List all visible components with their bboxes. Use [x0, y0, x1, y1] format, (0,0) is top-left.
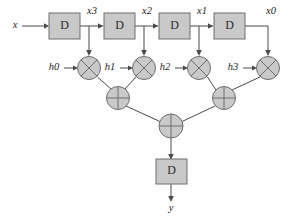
fir-filter-diagram: D D D D D — [0, 0, 295, 217]
arrowhead-d1-input — [44, 23, 49, 29]
label-tap-x1: x1 — [196, 5, 207, 16]
delay-block-d4-label: D — [225, 18, 234, 32]
multiplier-h2[interactable] — [188, 57, 211, 80]
label-tap-x0: x0 — [265, 5, 277, 16]
multiplier-h1[interactable] — [133, 57, 156, 80]
multiplier-h0[interactable] — [78, 57, 101, 80]
label-coefficient-h2: h2 — [160, 61, 171, 72]
arrowhead-mul3-input — [265, 50, 271, 56]
wire-mul0-to-addleft — [98, 77, 113, 90]
wire-addright-to-addfinal — [181, 106, 215, 122]
wire-mul2-to-addright — [208, 77, 217, 90]
label-coefficient-h3: h3 — [228, 61, 239, 72]
arrowhead-mul2-input — [196, 50, 202, 56]
label-output-y: y — [168, 202, 174, 213]
arrowhead-d2-input — [98, 23, 103, 29]
delay-block-d3-label: D — [170, 18, 179, 32]
arrowhead-mul1-input — [141, 50, 147, 56]
wire-mul1-to-addleft — [124, 77, 136, 90]
arrowhead-output — [168, 196, 174, 202]
adder-final[interactable] — [159, 114, 183, 138]
adder-right[interactable] — [213, 87, 236, 110]
delay-block-d4[interactable]: D — [214, 13, 245, 39]
adder-left[interactable] — [107, 87, 130, 110]
multiplier-h3[interactable] — [257, 57, 280, 80]
label-input-x: x — [12, 19, 18, 30]
delay-block-d3[interactable]: D — [159, 13, 190, 39]
label-tap-x2: x2 — [141, 5, 153, 16]
arrowhead-d3-input — [153, 23, 158, 29]
label-tap-x3: x3 — [86, 5, 97, 16]
delay-block-d1[interactable]: D — [49, 13, 80, 39]
arrowhead-mul0-input — [86, 50, 92, 56]
diagram-canvas: D D D D D — [0, 0, 295, 217]
delay-block-d2-label: D — [115, 18, 124, 32]
wire-addleft-to-addfinal — [126, 106, 161, 122]
delay-block-output[interactable]: D — [156, 159, 187, 184]
delay-block-output-label: D — [167, 163, 176, 177]
label-coefficient-h0: h0 — [49, 61, 60, 72]
wire-mul3-to-addright — [232, 77, 260, 90]
arrowhead-d4-input — [208, 23, 213, 29]
delay-block-d2[interactable]: D — [104, 13, 135, 39]
label-coefficient-h1: h1 — [105, 61, 116, 72]
delay-block-d1-label: D — [60, 18, 69, 32]
